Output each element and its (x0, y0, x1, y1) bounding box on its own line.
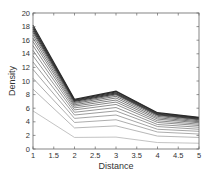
x-tick-label: 2.5 (90, 151, 100, 160)
x-tick-label: 1 (31, 151, 35, 160)
x-tick-label: 3.5 (132, 151, 142, 160)
y-axis-label: Density (7, 65, 17, 96)
y-tick-label: 0 (26, 145, 30, 154)
y-tick-label: 8 (26, 90, 30, 99)
x-tick-label: 4 (155, 151, 159, 160)
y-tick-label: 12 (22, 63, 30, 72)
x-tick-label: 3 (114, 151, 118, 160)
y-tick-label: 4 (26, 117, 30, 126)
y-tick-label: 2 (26, 131, 30, 140)
line-chart: 11.522.533.544.55 02468101214161820 Dist… (0, 0, 213, 177)
x-tick-label: 1.5 (49, 151, 59, 160)
y-tick-label: 16 (22, 36, 30, 45)
y-tick-label: 14 (22, 49, 30, 58)
x-axis-label: Distance (98, 161, 133, 171)
y-tick-label: 18 (22, 22, 30, 31)
x-tick-label: 4.5 (173, 151, 183, 160)
y-tick-label: 6 (26, 104, 30, 113)
x-tick-label: 2 (72, 151, 76, 160)
y-tick-label: 10 (22, 77, 30, 86)
x-tick-label: 5 (197, 151, 201, 160)
y-tick-label: 20 (22, 9, 30, 18)
